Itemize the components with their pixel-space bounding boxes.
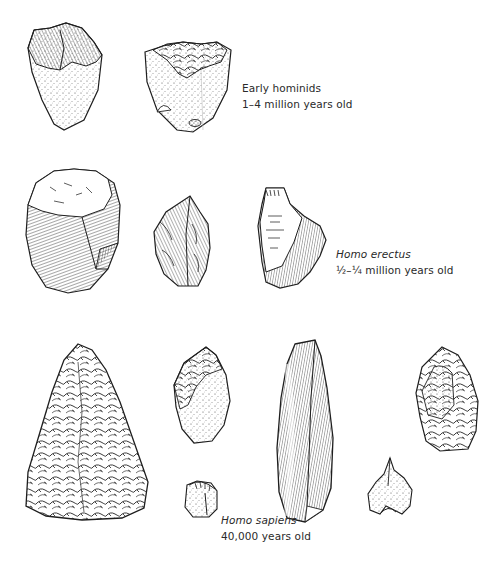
early-hominid-chopper-2 — [143, 40, 233, 135]
age-label: 1–4 million years old — [242, 96, 353, 112]
species-label: Early hominids — [242, 80, 353, 96]
homo-sapiens-blade — [275, 338, 339, 524]
homo-erectus-point — [152, 194, 216, 289]
caption-homo-sapiens: Homo sapiens 40,000 years old — [221, 512, 311, 544]
species-label: Homo erectus — [336, 246, 454, 262]
homo-sapiens-point-retouched — [412, 345, 482, 453]
homo-erectus-handaxe-1 — [24, 165, 122, 295]
homo-erectus-scraper — [256, 186, 328, 290]
homo-sapiens-end-scraper — [183, 479, 219, 519]
homo-sapiens-borer — [366, 456, 416, 518]
caption-early-hominids: Early hominids 1–4 million years old — [242, 80, 353, 112]
age-label: ½–¼ million years old — [336, 262, 454, 278]
caption-homo-erectus: Homo erectus ½–¼ million years old — [336, 246, 454, 278]
homo-sapiens-scraper-small — [172, 345, 232, 445]
species-label: Homo sapiens — [221, 512, 311, 528]
age-label: 40,000 years old — [221, 528, 311, 544]
early-hominid-chopper-1 — [20, 20, 106, 132]
homo-sapiens-biface — [22, 342, 152, 520]
